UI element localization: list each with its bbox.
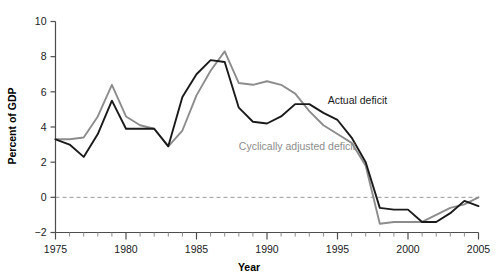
- y-tick-label: 4: [41, 121, 47, 133]
- y-tick-label: 8: [41, 50, 47, 62]
- series-label-actual-deficit: Actual deficit: [328, 94, 388, 106]
- x-tick-label: 1995: [326, 243, 350, 255]
- y-axis-title: Percent of GDP: [6, 87, 18, 164]
- y-tick-label: 6: [41, 86, 47, 98]
- chart-container: 1086420−2 1975198019851990199520002005 A…: [0, 0, 498, 280]
- series-label-cyclically-adjusted-deficit: Cyclically adjusted deficit: [239, 140, 356, 152]
- y-tick-label: 10: [35, 15, 47, 27]
- deficit-line-chart: 1086420−2 1975198019851990199520002005 A…: [0, 0, 498, 280]
- x-tick-label: 2000: [396, 243, 420, 255]
- x-tick-label: 1990: [255, 243, 279, 255]
- y-tick-label: 0: [41, 191, 47, 203]
- y-tick-label: 2: [41, 156, 47, 168]
- x-tick-label: 1980: [114, 243, 138, 255]
- x-tick-label: 1975: [44, 243, 68, 255]
- x-axis-title: Year: [238, 261, 260, 273]
- x-tick-label: 2005: [467, 243, 491, 255]
- y-tick-label: −2: [35, 226, 47, 238]
- x-tick-label: 1985: [185, 243, 209, 255]
